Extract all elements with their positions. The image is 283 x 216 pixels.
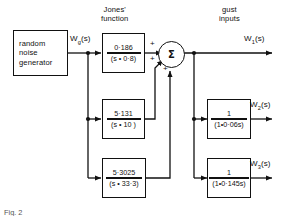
wire-jones3-to-summer <box>146 71 170 178</box>
jones-1-denominator: (s • 0·8) <box>108 54 139 63</box>
jones-3-numerator: 5·3025 <box>110 169 138 178</box>
gust-3-numerator: 1 <box>224 169 234 178</box>
junction-dot-out-top <box>192 51 196 55</box>
jones-block-3: 5·3025 (s • 33·3) <box>102 158 146 198</box>
signal-label-w2: W2(s) <box>250 100 271 111</box>
gust-label-line2: inputs <box>219 14 240 23</box>
junction-dot-bus-mid <box>86 117 90 121</box>
gust-block-3: 1 (1•0·145s) <box>207 158 251 198</box>
transfer-function-2: 5·131 (s • 10 ) <box>107 110 141 128</box>
signal-label-wg: Wg(s) <box>70 34 91 45</box>
jones-block-2: 5·131 (s • 10 ) <box>102 99 145 139</box>
section-label-jones: Jones' function <box>101 5 128 24</box>
transfer-function-1: 0·186 (s • 0·8) <box>107 44 141 62</box>
source-line-2: noise <box>19 48 38 57</box>
figure-caption: Fig. 2 <box>4 208 22 216</box>
junction-dot-out-mid <box>192 117 196 121</box>
transfer-function-gust-2: 1 (1•0·06s) <box>211 110 246 128</box>
jones-label-line2: function <box>101 14 128 23</box>
gust-3-denominator: (1•0·145s) <box>209 179 248 188</box>
summer-sign-2: + <box>150 55 155 63</box>
signal-label-w1: W1(s) <box>244 34 265 45</box>
junction-dot-bus-top <box>86 51 90 55</box>
source-line-1: random <box>19 39 45 48</box>
transfer-function-3: 5·3025 (s • 33·3) <box>106 169 141 187</box>
wire-jones2-to-summer <box>145 60 163 119</box>
jones-2-numerator: 5·131 <box>111 110 135 119</box>
gust-block-2: 1 (1•0·06s) <box>207 99 251 139</box>
jones-2-denominator: (s • 10 ) <box>108 120 139 129</box>
source-line-3: generator <box>19 58 52 67</box>
signal-label-w3: W3(s) <box>250 159 271 170</box>
sigma-icon: Σ <box>168 50 175 60</box>
transfer-function-gust-3: 1 (1•0·145s) <box>209 169 248 187</box>
gust-2-numerator: 1 <box>224 110 234 119</box>
section-label-gust: gust inputs <box>219 5 240 24</box>
summer-sign-1: + <box>150 40 155 48</box>
summer-sign-3: + <box>163 65 168 73</box>
random-noise-generator-block: random noise generator <box>13 30 68 76</box>
figure-canvas: random noise generator Wg(s) Jones' func… <box>0 0 283 216</box>
jones-label-line1: Jones' <box>101 5 128 14</box>
gust-2-denominator: (1•0·06s) <box>211 120 246 129</box>
jones-3-denominator: (s • 33·3) <box>106 179 141 188</box>
jones-block-1: 0·186 (s • 0·8) <box>102 33 145 73</box>
gust-label-line1: gust <box>219 5 240 14</box>
jones-1-numerator: 0·186 <box>111 44 135 53</box>
